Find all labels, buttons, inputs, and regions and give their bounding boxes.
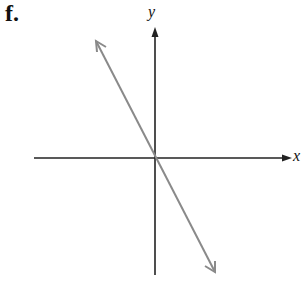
x-axis-arrow-icon [282, 155, 292, 162]
x-axis [34, 155, 292, 162]
coordinate-plane [0, 0, 303, 283]
y-axis-arrow-icon [152, 27, 159, 37]
